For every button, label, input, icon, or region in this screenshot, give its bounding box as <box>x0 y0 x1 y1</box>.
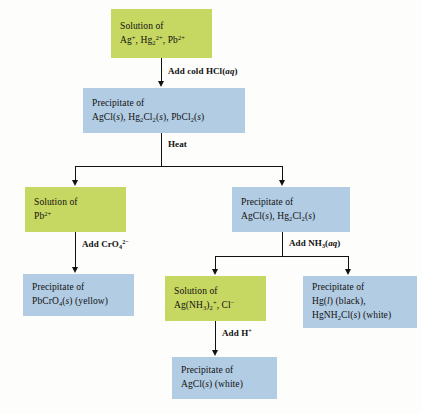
box-start-solution-line2: Ag+, Hg22+, Pb2+ <box>120 34 203 48</box>
connector-split-right-heat <box>282 166 283 181</box>
box-silver-ammine-solution-line1: Solution of <box>174 285 257 299</box>
arrowhead-to-lead-solution <box>72 180 78 186</box>
box-silver-chloride-precipitate-line1: Precipitate of <box>181 364 268 378</box>
flowchart-canvas: Solution of Ag+, Hg22+, Pb2+ Add cold HC… <box>0 0 421 414</box>
connector-silver-mercury-to-split <box>282 232 283 257</box>
box-silver-chloride-precipitate: Precipitate of AgCl(s) (white) <box>172 357 277 399</box>
box-mercury-precipitate-line1: Precipitate of <box>312 281 408 295</box>
box-silver-ammine-solution: Solution of Ag(NH3)2+, Cl− <box>165 276 266 321</box>
box-chloride-precipitate-line2: AgCl(s), Hg2Cl2(s), PbCl2(s) <box>92 111 236 125</box>
arrowhead-to-chloride <box>158 81 164 87</box>
arrowhead-to-silver-chloride <box>212 350 218 356</box>
reagent-label-add-hcl: Add cold HCl(aq) <box>168 66 238 76</box>
box-silver-mercury-precipitate: Precipitate of AgCl(s), Hg2Cl2(s) <box>232 187 350 232</box>
reagent-label-add-proton: Add H+ <box>222 328 252 338</box>
box-lead-solution-line1: Solution of <box>34 196 117 210</box>
connector-ammine-to-silver-chloride <box>215 321 216 351</box>
box-lead-chromate-precipitate: Precipitate of PbCrO4(s) (yellow) <box>23 274 134 316</box>
connector-split-bar-heat <box>75 166 283 167</box>
box-mercury-precipitate: Precipitate of Hg(l) (black), HgNH2Cl(s)… <box>303 276 417 328</box>
box-silver-chloride-precipitate-line2: AgCl(s) (white) <box>181 378 268 392</box>
connector-split-right-ammonia <box>348 256 349 270</box>
box-start-solution: Solution of Ag+, Hg22+, Pb2+ <box>111 9 212 58</box>
connector-split-left-ammonia <box>215 256 216 270</box>
box-silver-mercury-precipitate-line2: AgCl(s), Hg2Cl2(s) <box>241 210 341 224</box>
box-silver-ammine-solution-line2: Ag(NH3)2+, Cl− <box>174 299 257 313</box>
box-mercury-precipitate-line2: Hg(l) (black), <box>312 295 408 309</box>
box-chloride-precipitate: Precipitate of AgCl(s), Hg2Cl2(s), PbCl2… <box>83 88 245 133</box>
box-mercury-precipitate-line3: HgNH2Cl(s) (white) <box>312 309 408 323</box>
box-lead-chromate-precipitate-line2: PbCrO4(s) (yellow) <box>32 295 125 309</box>
connector-lead-to-chromate <box>75 232 76 268</box>
reagent-label-heat: Heat <box>168 139 187 149</box>
box-start-solution-line1: Solution of <box>120 20 203 34</box>
box-lead-chromate-precipitate-line1: Precipitate of <box>32 281 125 295</box>
connector-chloride-to-split <box>161 133 162 167</box>
arrowhead-to-mercury-precipitate <box>345 269 351 275</box>
box-lead-solution: Solution of Pb2+ <box>25 187 126 232</box>
arrowhead-to-silver-mercury <box>279 180 285 186</box>
connector-split-left-heat <box>75 166 76 181</box>
box-chloride-precipitate-line1: Precipitate of <box>92 97 236 111</box>
connector-start-to-chloride <box>161 58 162 82</box>
reagent-label-add-ammonia: Add NH3(aq) <box>289 238 340 248</box>
connector-split-bar-ammonia <box>215 256 349 257</box>
box-lead-solution-line2: Pb2+ <box>34 210 117 224</box>
arrowhead-to-silver-ammine <box>212 269 218 275</box>
reagent-label-add-chromate: Add CrO42− <box>82 239 129 249</box>
box-silver-mercury-precipitate-line1: Precipitate of <box>241 196 341 210</box>
arrowhead-to-lead-chromate <box>72 267 78 273</box>
